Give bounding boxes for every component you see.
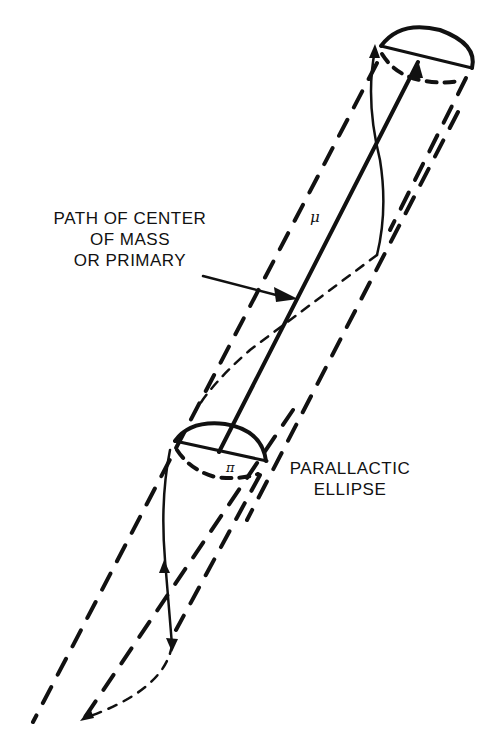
- diagram-canvas: PATH OF CENTER OF MASS OR PRIMARY PARALL…: [0, 0, 485, 745]
- path-label-line1: PATH OF CENTER: [30, 208, 230, 229]
- diagram-drawing: [0, 0, 485, 745]
- right-upper-dashed-line: [390, 78, 466, 230]
- label-pointer-line: [203, 276, 280, 296]
- orbit-path-middle-dashed: [195, 255, 377, 412]
- pi-symbol: π: [226, 460, 235, 475]
- right-lower-dashed-line: [83, 410, 293, 720]
- orbit-top-arrowhead-icon: [369, 44, 380, 58]
- ellipse-label-line2: ELLIPSE: [275, 479, 425, 500]
- ellipse-label: PARALLACTIC ELLIPSE: [275, 458, 425, 500]
- ellipse-label-line1: PARALLACTIC: [275, 458, 425, 479]
- orbit-path-lower-solid: [163, 450, 172, 645]
- path-label-line3: OR PRIMARY: [30, 250, 230, 271]
- bottom-ellipse-dashed: [177, 450, 258, 478]
- left-outer-dashed-line: [33, 63, 377, 722]
- path-label: PATH OF CENTER OF MASS OR PRIMARY: [30, 208, 230, 271]
- middle-lower-dashed-line: [176, 475, 260, 630]
- center-of-mass-path: [219, 62, 418, 452]
- top-ellipse-chord: [381, 46, 472, 68]
- bottom-ellipse-arc: [175, 423, 266, 461]
- orbit-mid-arrowhead-icon: [159, 560, 170, 573]
- orbit-down-arrowhead-icon: [166, 638, 178, 652]
- top-ellipse-dashed: [382, 54, 462, 83]
- label-arrowhead-icon: [274, 287, 298, 302]
- path-label-line2: OF MASS: [30, 229, 230, 250]
- top-ellipse-arc: [381, 27, 473, 68]
- mu-symbol: μ: [310, 208, 320, 226]
